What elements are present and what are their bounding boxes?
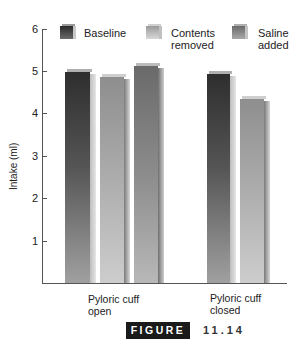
legend-swatch-contents-removed (146, 24, 162, 39)
category-label-closed: Pyloric cuff closed (210, 292, 261, 316)
y-tick (42, 71, 47, 72)
category-line: Pyloric cuff (88, 293, 139, 305)
bar-closed-contents-removed (240, 99, 270, 283)
y-tick (42, 241, 47, 242)
y-tick-label: 3 (24, 150, 38, 162)
legend-swatch-baseline (60, 24, 76, 39)
y-tick-label: 4 (24, 107, 38, 119)
y-axis-label: Intake (ml) (8, 143, 19, 190)
legend-line: removed (171, 39, 215, 51)
bar-closed-baseline (207, 74, 236, 283)
category-line: open (88, 305, 139, 317)
y-tick (42, 113, 47, 114)
bar-open-baseline (65, 72, 96, 283)
category-line: Pyloric cuff (210, 292, 261, 304)
y-tick (42, 156, 47, 157)
legend-swatch-saline-added (232, 24, 248, 39)
legend-label-saline-added: Saline added (258, 27, 289, 51)
y-tick-label: 5 (24, 65, 38, 77)
category-label-open: Pyloric cuff open (88, 293, 139, 317)
y-tick-label: 1 (24, 235, 38, 247)
y-tick (42, 198, 47, 199)
y-tick (42, 29, 47, 30)
y-tick-label: 6 (24, 23, 38, 35)
bar-open-contents-removed (100, 77, 130, 283)
x-axis (42, 283, 287, 284)
y-tick-label: 2 (24, 192, 38, 204)
legend-line: Saline (258, 27, 289, 39)
legend-label-contents-removed: Contents removed (171, 27, 215, 51)
figure-label: FIGURE (126, 322, 190, 339)
legend-label-baseline: Baseline (84, 27, 126, 39)
legend-line: added (258, 39, 289, 51)
bar-open-saline-added (134, 66, 164, 283)
category-line: closed (210, 304, 261, 316)
figure-number: 11.14 (203, 322, 245, 339)
legend-line: Contents (171, 27, 215, 39)
